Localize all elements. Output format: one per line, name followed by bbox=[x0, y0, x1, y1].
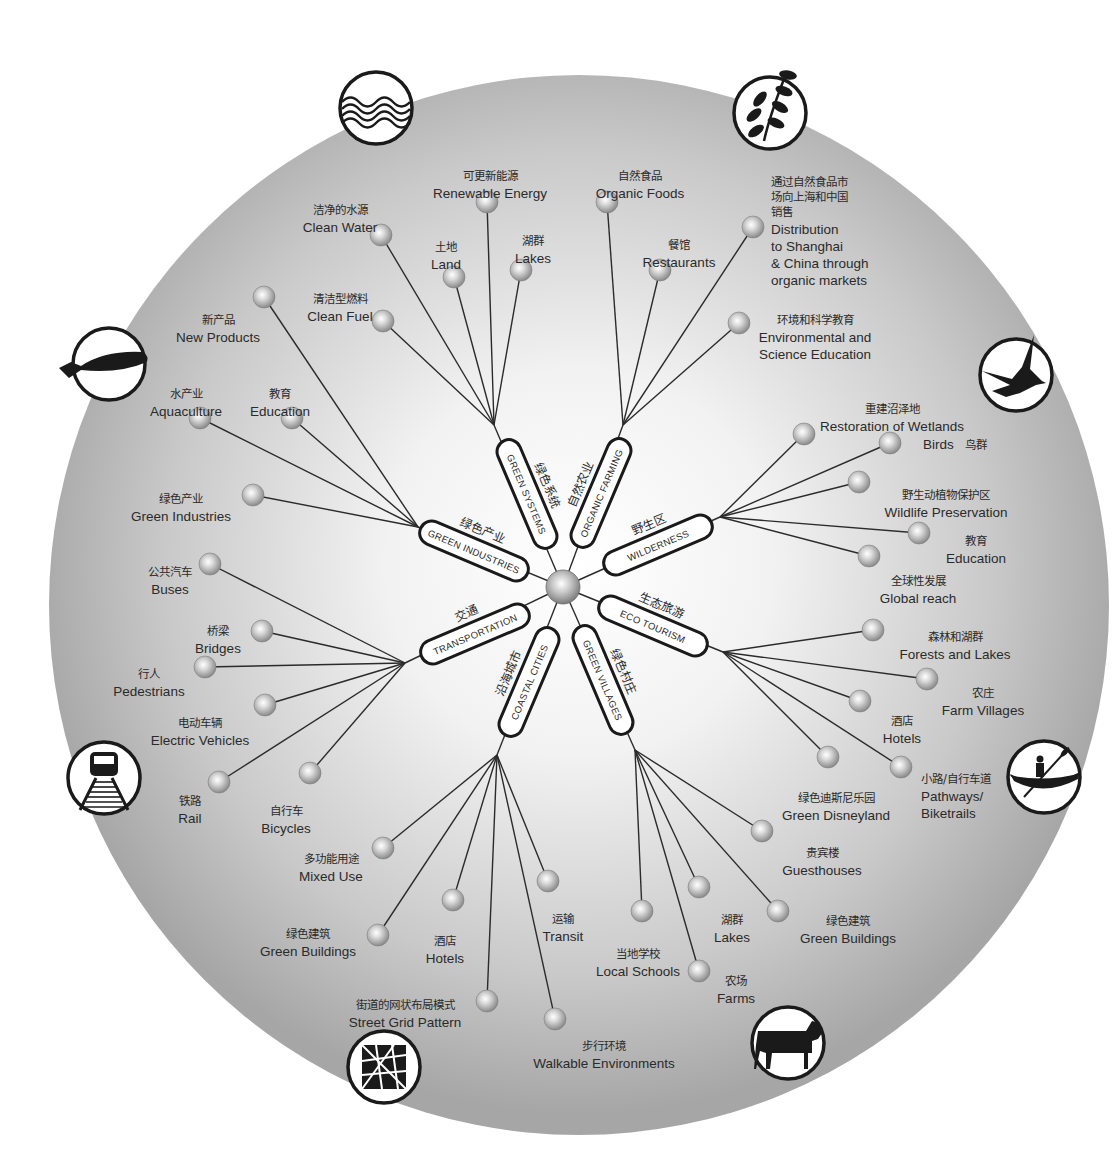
node-eco-tourism-2 bbox=[849, 690, 871, 712]
label-en: Pathways/ bbox=[921, 789, 984, 804]
label-en: Street Grid Pattern bbox=[349, 1015, 462, 1030]
label-en: Clean Water bbox=[303, 220, 378, 235]
label-zh: 水产业 bbox=[170, 387, 203, 401]
node-wilderness-2 bbox=[848, 471, 870, 493]
node-wilderness-0 bbox=[793, 423, 815, 445]
label-en: Restoration of Wetlands bbox=[820, 419, 964, 434]
node-eco-tourism-3 bbox=[817, 746, 839, 768]
label-zh: 绿色迪斯尼乐园 bbox=[798, 791, 875, 805]
label-en: Electric Vehicles bbox=[151, 733, 250, 748]
label-en: Lakes bbox=[714, 930, 750, 945]
label-zh: 全球性发展 bbox=[891, 574, 947, 588]
node-green-villages-0 bbox=[751, 820, 773, 842]
label-en: Walkable Environments bbox=[533, 1056, 675, 1071]
node-coastal-cities-2 bbox=[442, 889, 464, 911]
label-zh: 绿色产业 bbox=[159, 492, 203, 506]
label-zh: 湖群 bbox=[721, 913, 744, 927]
node-wilderness-4 bbox=[858, 545, 880, 567]
node-coastal-cities-5 bbox=[544, 1008, 566, 1030]
node-transportation-4 bbox=[208, 771, 230, 793]
node-transportation-3 bbox=[254, 694, 276, 716]
fish-icon bbox=[59, 328, 148, 400]
label-en: to Shanghai bbox=[771, 239, 843, 254]
label-en: Bicycles bbox=[261, 821, 311, 836]
label-en: Land bbox=[431, 257, 461, 272]
label-en: Guesthouses bbox=[782, 863, 862, 878]
node-green-villages-2 bbox=[767, 900, 789, 922]
node-wilderness-1 bbox=[879, 432, 901, 454]
label-zh: 环境和科学教育 bbox=[777, 313, 854, 327]
label-en: Forests and Lakes bbox=[899, 647, 1010, 662]
label-en: Buses bbox=[151, 582, 189, 597]
node-green-villages-4 bbox=[688, 960, 710, 982]
diagram-canvas: GREEN SYSTEMS绿色系统ORGANIC FARMING自然农业WILD… bbox=[0, 0, 1117, 1166]
label-zh: 鸟群 bbox=[965, 438, 988, 452]
node-transportation-0 bbox=[199, 553, 221, 575]
label-en: Education bbox=[250, 404, 310, 419]
water-waves-icon bbox=[340, 72, 412, 144]
label-zh: 当地学校 bbox=[616, 947, 661, 961]
label-en: Clean Fuel bbox=[307, 309, 372, 324]
label-en: Green Buildings bbox=[800, 931, 896, 946]
label-en: Transit bbox=[543, 929, 584, 944]
label-en: New Products bbox=[176, 330, 260, 345]
label-zh: 公共汽车 bbox=[148, 565, 192, 579]
label-zh: 街道的网状布局模式 bbox=[356, 998, 456, 1012]
label-zh: 场向上海和中国 bbox=[771, 190, 848, 204]
node-coastal-cities-0 bbox=[372, 837, 394, 859]
label-en: Farms bbox=[717, 991, 755, 1006]
node-coastal-cities-3 bbox=[367, 924, 389, 946]
label-en: Biketrails bbox=[921, 806, 976, 821]
node-green-industries-3 bbox=[242, 484, 264, 506]
label-zh: 新产品 bbox=[202, 313, 235, 327]
label-en: Birds bbox=[923, 437, 954, 452]
node-green-industries-0 bbox=[253, 286, 275, 308]
node-green-villages-1 bbox=[688, 876, 710, 898]
label-zh: 铁路 bbox=[179, 794, 202, 808]
node-transportation-1 bbox=[251, 620, 273, 642]
label-en: Hotels bbox=[883, 731, 922, 746]
label-zh: 农庄 bbox=[972, 686, 994, 700]
label-zh: 运输 bbox=[552, 912, 575, 926]
node-coastal-cities-4 bbox=[476, 990, 498, 1012]
label-en: Restaurants bbox=[643, 255, 716, 270]
label-zh: 贵宾楼 bbox=[806, 846, 840, 860]
street-grid-icon bbox=[348, 1031, 420, 1103]
central-hub bbox=[546, 570, 580, 604]
label-en: Green Disneyland bbox=[782, 808, 890, 823]
label-en: Farm Villages bbox=[942, 703, 1025, 718]
node-wilderness-3 bbox=[908, 522, 930, 544]
label-zh: 土地 bbox=[435, 240, 458, 254]
label-zh: 清洁型燃料 bbox=[313, 292, 369, 306]
train-icon bbox=[68, 742, 140, 814]
sustainability-radial-diagram: GREEN SYSTEMS绿色系统ORGANIC FARMING自然农业WILD… bbox=[0, 0, 1117, 1166]
label-zh: 自行车 bbox=[270, 804, 303, 818]
label-en: Hotels bbox=[426, 951, 465, 966]
label-zh: 重建沼泽地 bbox=[865, 402, 921, 416]
label-zh: 行人 bbox=[138, 667, 161, 681]
cow-icon bbox=[752, 1007, 824, 1079]
label-en: Bridges bbox=[195, 641, 241, 656]
node-organic-farming-3 bbox=[728, 312, 750, 334]
label-en: Lakes bbox=[515, 251, 551, 266]
label-zh: 电动车辆 bbox=[178, 716, 222, 730]
label-zh: 小路/自行车道 bbox=[921, 772, 992, 786]
label-zh: 酒店 bbox=[434, 934, 456, 948]
label-zh: 绿色建筑 bbox=[826, 914, 871, 928]
node-eco-tourism-0 bbox=[862, 619, 884, 641]
label-en: Rail bbox=[178, 811, 201, 826]
label-en: Global reach bbox=[880, 591, 957, 606]
label-zh: 餐馆 bbox=[668, 238, 690, 252]
node-transportation-2 bbox=[194, 656, 216, 678]
label-en: & China through bbox=[771, 256, 869, 271]
label-zh: 销售 bbox=[771, 205, 793, 219]
label-zh: 教育 bbox=[269, 387, 291, 401]
label-en: Renewable Energy bbox=[433, 186, 547, 201]
label-zh: 森林和湖群 bbox=[928, 630, 984, 644]
node-eco-tourism-1 bbox=[916, 668, 938, 690]
node-green-systems-4 bbox=[372, 310, 394, 332]
label-en: Local Schools bbox=[596, 964, 680, 979]
label-zh: 步行环境 bbox=[582, 1039, 626, 1053]
label-zh: 桥梁 bbox=[207, 624, 230, 638]
kayak-icon bbox=[1008, 741, 1082, 813]
